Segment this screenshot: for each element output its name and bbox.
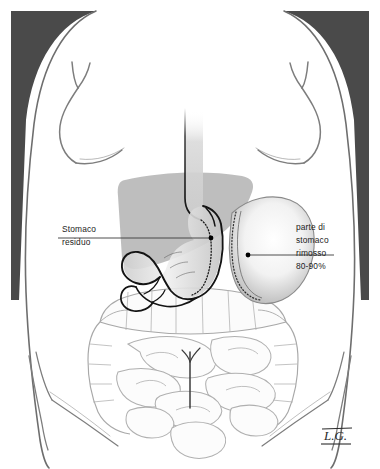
anatomy-diagram-svg: Stomaco residuo parte di stomaco rimosso… [0, 0, 380, 469]
leader-dot-left [209, 236, 214, 241]
esophagus-fill [185, 110, 203, 216]
leader-dot-right [246, 253, 251, 258]
esophagus [185, 108, 203, 220]
medical-illustration-figure: Stomaco residuo parte di stomaco rimosso… [0, 0, 380, 469]
annotation-right-line-1: parte di [296, 222, 325, 232]
annotation-left-line-1: Stomaco [62, 224, 96, 234]
annotation-left-line-2: residuo [62, 237, 91, 247]
signature-text: L.G. [323, 428, 347, 443]
annotation-right-line-4: 80-90% [296, 261, 326, 271]
annotation-right-line-3: rimosso [296, 248, 327, 258]
annotation-right-line-2: stomaco [296, 235, 329, 245]
